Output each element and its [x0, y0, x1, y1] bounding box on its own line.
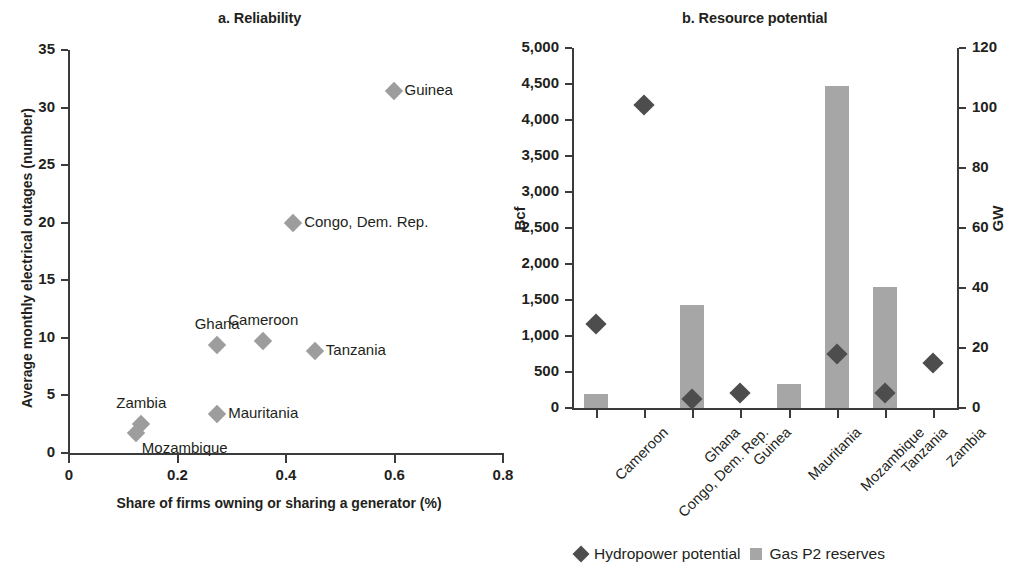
- panel-b-x-tick: [692, 410, 694, 418]
- panel-a-x-tick: [502, 455, 504, 463]
- figure-container: a. Reliability Average monthly electrica…: [0, 0, 1023, 573]
- panel-b-left-y-tick-label: 4,500: [506, 74, 559, 91]
- panel-b-left-y-tick: [565, 335, 572, 337]
- scatter-marker: [254, 332, 272, 350]
- panel-a-x-tick: [68, 455, 70, 463]
- panel-b-left-y-tick-label: 2,500: [506, 218, 559, 235]
- panel-b-plot-area: 05001,0001,5002,0002,5003,0003,5004,0004…: [572, 48, 957, 408]
- bar-gas-reserves: [584, 394, 608, 408]
- panel-a-x-tick-label: 0: [38, 466, 100, 483]
- diamond-marker-icon: [573, 546, 590, 563]
- panel-a-plot-area: 0510152025303500.20.40.60.8GuineaCongo, …: [68, 50, 502, 453]
- panel-b-right-y-tick-label: 80: [972, 158, 1017, 175]
- panel-b-left-y-tick: [565, 227, 572, 229]
- panel-b-x-tick: [885, 410, 887, 418]
- panel-b-right-y-tick-label: 120: [972, 38, 1017, 55]
- panel-b-x-tick: [837, 410, 839, 418]
- panel-b-x-tick: [740, 410, 742, 418]
- panel-b-left-y-tick: [565, 155, 572, 157]
- panel-b-x-tick: [933, 410, 935, 418]
- scatter-point-label: Zambia: [96, 394, 186, 411]
- scatter-marker: [384, 82, 402, 100]
- panel-b-left-y-tick-label: 4,000: [506, 110, 559, 127]
- panel-a-y-tick: [61, 222, 68, 224]
- panel-a-y-tick: [61, 452, 68, 454]
- panel-b-left-y-tick: [565, 191, 572, 193]
- panel-b-left-y-tick-label: 0: [506, 398, 559, 415]
- marker-hydropower-potential: [634, 94, 655, 115]
- panel-a-title: a. Reliability: [218, 10, 301, 26]
- scatter-point-label: Mozambique: [142, 439, 228, 456]
- panel-b-category-label: Mauritania: [804, 424, 863, 483]
- panel-b-left-y-tick: [565, 407, 572, 409]
- panel-a-x-tick-label: 0.6: [364, 466, 426, 483]
- legend-item-hydropower: Hydropower potential: [575, 545, 740, 563]
- panel-a-x-axis-label: Share of firms owning or sharing a gener…: [62, 495, 496, 511]
- scatter-marker: [306, 341, 324, 359]
- panel-a-y-tick-label: 15: [10, 270, 55, 287]
- panel-resource-potential: b. Resource potential Bcf GW 05001,0001,…: [512, 0, 1023, 573]
- panel-b-right-y-tick: [959, 107, 966, 109]
- panel-b-right-y-tick: [959, 47, 966, 49]
- panel-a-y-tick: [61, 107, 68, 109]
- panel-a-y-tick-label: 30: [10, 98, 55, 115]
- panel-b-left-y-tick-label: 3,500: [506, 146, 559, 163]
- panel-b-left-y-tick: [565, 263, 572, 265]
- panel-b-right-y-tick: [959, 407, 966, 409]
- scatter-point-label: Tanzania: [326, 341, 386, 358]
- panel-b-title: b. Resource potential: [682, 10, 827, 26]
- panel-a-y-tick-label: 20: [10, 213, 55, 230]
- scatter-point-label: Guinea: [405, 81, 453, 98]
- panel-a-y-tick: [61, 337, 68, 339]
- panel-b-left-y-tick: [565, 299, 572, 301]
- legend-label-gas: Gas P2 reserves: [769, 545, 884, 563]
- panel-b-right-y-tick-label: 60: [972, 218, 1017, 235]
- panel-a-x-tick-label: 0.4: [255, 466, 317, 483]
- panel-a-x-tick-label: 0.2: [147, 466, 209, 483]
- panel-b-left-axis: [572, 48, 574, 408]
- panel-a-y-tick-label: 25: [10, 155, 55, 172]
- scatter-marker: [284, 214, 302, 232]
- panel-b-right-y-tick: [959, 227, 966, 229]
- scatter-point-label: Ghana: [172, 315, 262, 332]
- panel-b-right-y-tick: [959, 287, 966, 289]
- panel-b-right-y-tick: [959, 347, 966, 349]
- panel-b-left-y-tick-label: 5,000: [506, 38, 559, 55]
- panel-a-y-tick-label: 5: [10, 385, 55, 402]
- square-marker-icon: [750, 548, 762, 560]
- legend-item-gas: Gas P2 reserves: [750, 545, 884, 563]
- marker-hydropower-potential: [922, 352, 943, 373]
- panel-b-right-y-tick-label: 20: [972, 338, 1017, 355]
- panel-b-right-y-tick-label: 40: [972, 278, 1017, 295]
- chart-legend: Hydropower potential Gas P2 reserves: [575, 545, 885, 563]
- panel-b-right-y-tick-label: 0: [972, 398, 1017, 415]
- bar-gas-reserves: [777, 384, 801, 408]
- panel-a-x-tick: [285, 455, 287, 463]
- panel-b-right-y-tick: [959, 167, 966, 169]
- panel-b-x-tick: [644, 410, 646, 418]
- legend-label-hydropower: Hydropower potential: [594, 545, 740, 563]
- panel-a-y-tick-label: 0: [10, 443, 55, 460]
- panel-reliability: a. Reliability Average monthly electrica…: [0, 0, 512, 573]
- panel-a-y-tick-label: 10: [10, 328, 55, 345]
- panel-b-left-y-tick: [565, 47, 572, 49]
- marker-hydropower-potential: [585, 313, 606, 334]
- scatter-marker: [208, 336, 226, 354]
- panel-a-y-tick: [61, 394, 68, 396]
- panel-b-left-y-tick: [565, 371, 572, 373]
- panel-b-left-y-tick-label: 500: [506, 362, 559, 379]
- panel-b-x-axis: [572, 408, 959, 410]
- panel-a-y-axis: [68, 50, 70, 453]
- panel-b-category-label: Zambia: [943, 424, 989, 470]
- scatter-marker: [208, 405, 226, 423]
- scatter-point-label: Congo, Dem. Rep.: [304, 213, 428, 230]
- panel-a-x-tick: [394, 455, 396, 463]
- scatter-point-label: Mauritania: [228, 404, 298, 421]
- panel-b-left-y-tick-label: 1,500: [506, 290, 559, 307]
- panel-b-right-y-tick-label: 100: [972, 98, 1017, 115]
- panel-a-y-tick: [61, 279, 68, 281]
- marker-hydropower-potential: [730, 382, 751, 403]
- panel-a-y-tick: [61, 164, 68, 166]
- panel-b-x-tick: [789, 410, 791, 418]
- panel-b-x-tick: [596, 410, 598, 418]
